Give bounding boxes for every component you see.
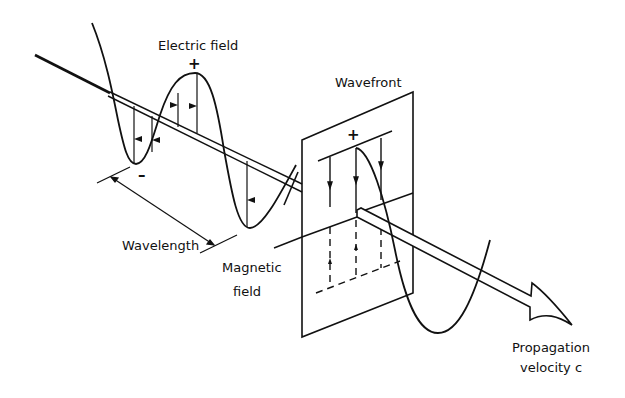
em-wave-diagram: Electric field + – Wavefront + Wavelengt… <box>0 0 625 398</box>
propagation-label-line1: Propagation <box>512 340 590 355</box>
propagation-label-line2: velocity c <box>520 360 582 375</box>
wavelength-label: Wavelength <box>122 238 199 253</box>
magnetic-field-label-line1: Magnetic <box>222 260 282 275</box>
electric-field-wave-left <box>92 23 296 228</box>
electric-field-label: Electric field <box>158 38 238 53</box>
plane-plus-sign-label: + <box>347 126 360 144</box>
plus-sign-label: + <box>188 55 201 73</box>
minus-sign-label: – <box>138 166 146 184</box>
magnetic-field-label-line2: field <box>233 284 261 299</box>
propagation-axis <box>35 55 300 191</box>
wavefront-label: Wavefront <box>335 75 402 90</box>
